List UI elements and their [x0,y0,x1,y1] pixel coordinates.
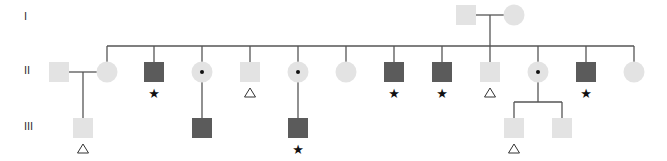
triangle-marker-icon [245,88,256,97]
pedigree-chart: IIIIII ★★★★★ [0,0,667,161]
individual-ii-spouse[interactable] [49,62,69,82]
individual-iii-1[interactable] [73,118,93,153]
generation-label: III [24,120,33,132]
generation-labels: IIIIII [24,10,33,132]
male-square-icon [49,62,69,82]
individual-ii-4[interactable] [240,62,260,97]
individual-iii-5[interactable] [552,118,572,138]
individual-ii-2[interactable]: ★ [144,62,164,101]
carrier-dot-icon [536,70,540,74]
affected-male-square-icon [432,62,452,82]
male-square-icon [504,118,524,138]
individual-i-1[interactable] [456,5,476,25]
individual-iii-4[interactable] [504,118,524,153]
individual-ii-12[interactable] [624,62,645,83]
affected-male-square-icon [192,118,212,138]
star-marker-icon: ★ [580,86,592,101]
triangle-marker-icon [509,144,520,153]
individual-ii-3[interactable] [192,62,213,83]
male-square-icon [240,62,260,82]
female-circle-icon [504,5,525,26]
male-square-icon [73,118,93,138]
individual-i-2[interactable] [504,5,525,26]
star-marker-icon: ★ [148,86,160,101]
star-marker-icon: ★ [436,86,448,101]
affected-male-square-icon [576,62,596,82]
carrier-dot-icon [200,70,204,74]
female-circle-icon [97,62,118,83]
affected-male-square-icon [144,62,164,82]
individual-ii-6[interactable] [336,62,357,83]
generation-label: I [24,10,27,22]
individuals: ★★★★★ [49,5,645,158]
affected-male-square-icon [384,62,404,82]
individual-ii-11[interactable]: ★ [576,62,596,101]
affected-male-square-icon [288,118,308,138]
male-square-icon [552,118,572,138]
female-circle-icon [336,62,357,83]
triangle-marker-icon [485,88,496,97]
individual-ii-5[interactable] [288,62,309,83]
individual-ii-10[interactable] [528,62,549,83]
male-square-icon [480,62,500,82]
male-square-icon [456,5,476,25]
female-circle-icon [624,62,645,83]
individual-ii-7[interactable]: ★ [384,62,404,101]
individual-ii-8[interactable]: ★ [432,62,452,101]
star-marker-icon: ★ [388,86,400,101]
carrier-dot-icon [296,70,300,74]
individual-ii-9[interactable] [480,62,500,97]
star-marker-icon: ★ [292,142,304,157]
individual-iii-2[interactable] [192,118,212,138]
triangle-marker-icon [78,144,89,153]
generation-label: II [24,64,30,76]
individual-iii-3[interactable]: ★ [288,118,308,157]
individual-ii-1[interactable] [97,62,118,83]
